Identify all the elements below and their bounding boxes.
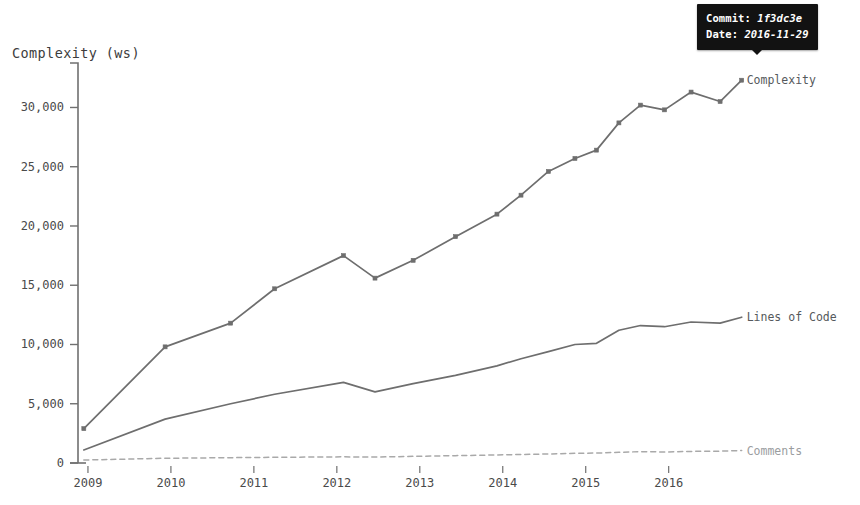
y-axis-tick-label: 15,000 bbox=[21, 278, 64, 292]
series-label-lines-of-code: Lines of Code bbox=[747, 310, 837, 324]
series-marker bbox=[595, 148, 599, 152]
x-axis-tick-label: 2016 bbox=[654, 476, 683, 490]
y-axis-tick-label: 5,000 bbox=[28, 397, 64, 411]
series-marker bbox=[495, 212, 499, 216]
series-line-comments bbox=[84, 451, 742, 460]
series-label-comments: Comments bbox=[747, 444, 802, 458]
y-axis-spine bbox=[70, 63, 78, 463]
y-axis-tick-label: 30,000 bbox=[21, 100, 64, 114]
y-axis-tick-label: 10,000 bbox=[21, 337, 64, 351]
series-marker bbox=[373, 276, 377, 280]
series-marker bbox=[163, 345, 167, 349]
axis-lines bbox=[70, 63, 86, 463]
x-axis-tick-label: 2015 bbox=[571, 476, 600, 490]
x-axis-tick-label: 2009 bbox=[74, 476, 103, 490]
tooltip-commit-value: 1f3dc3e bbox=[757, 12, 802, 24]
tooltip-date-value: 2016-11-29 bbox=[744, 28, 808, 40]
series-lines bbox=[84, 80, 742, 460]
series-marker bbox=[411, 258, 415, 262]
y-axis-tick-label: 25,000 bbox=[21, 160, 64, 174]
series-marker bbox=[718, 100, 722, 104]
tooltip-date-key: Date: bbox=[706, 28, 738, 40]
series-marker bbox=[341, 254, 345, 258]
series-marker bbox=[546, 169, 550, 173]
tooltip-date-row: Date: 2016-11-29 bbox=[706, 26, 809, 42]
series-line-complexity bbox=[84, 80, 742, 428]
chart-plot-area bbox=[0, 0, 860, 505]
series-marker bbox=[573, 156, 577, 160]
tooltip-commit-key: Commit: bbox=[706, 12, 751, 24]
series-marker bbox=[519, 193, 523, 197]
tooltip-commit-row: Commit: 1f3dc3e bbox=[706, 10, 809, 26]
series-marker bbox=[453, 235, 457, 239]
tooltip-pointer-icon bbox=[752, 50, 762, 55]
chart-canvas: Complexity (ws) 05,00010,00015,00020,000… bbox=[0, 0, 860, 505]
x-axis-tick-label: 2012 bbox=[322, 476, 351, 490]
series-marker bbox=[740, 78, 744, 82]
x-axis-tick-label: 2011 bbox=[239, 476, 268, 490]
series-marker bbox=[617, 121, 621, 125]
series-markers bbox=[82, 78, 744, 430]
commit-tooltip: Commit: 1f3dc3e Date: 2016-11-29 bbox=[697, 4, 818, 50]
y-axis-tick-label: 20,000 bbox=[21, 219, 64, 233]
series-marker bbox=[663, 108, 667, 112]
x-axis-tick-label: 2013 bbox=[405, 476, 434, 490]
y-axis-tick-label: 0 bbox=[57, 456, 64, 470]
series-marker bbox=[82, 427, 86, 431]
series-line-lines-of-code bbox=[84, 317, 742, 450]
x-axis-tick-label: 2014 bbox=[488, 476, 517, 490]
series-marker bbox=[273, 287, 277, 291]
series-label-complexity: Complexity bbox=[747, 73, 816, 87]
series-marker bbox=[689, 90, 693, 94]
axis-ticks bbox=[70, 107, 669, 473]
x-axis-tick-label: 2010 bbox=[156, 476, 185, 490]
series-marker bbox=[638, 103, 642, 107]
series-marker bbox=[229, 321, 233, 325]
